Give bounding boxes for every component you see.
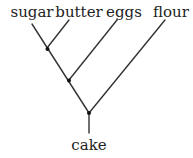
leaf-label-sugar: sugar bbox=[10, 3, 54, 21]
node-with-eggs bbox=[67, 79, 71, 83]
edge-eggs bbox=[69, 20, 117, 80]
edge-flour bbox=[89, 20, 165, 113]
node-sugar-butter bbox=[46, 47, 50, 51]
node-root bbox=[87, 111, 91, 115]
root-label-cake: cake bbox=[71, 136, 106, 154]
edge-sugar bbox=[32, 24, 89, 113]
leaf-label-butter: butter bbox=[55, 3, 103, 21]
edge-butter bbox=[47, 20, 69, 48]
leaf-label-eggs: eggs bbox=[106, 3, 142, 21]
leaf-label-flour: flour bbox=[153, 3, 190, 21]
tree-diagram: sugar butter eggs flour cake bbox=[0, 0, 193, 158]
